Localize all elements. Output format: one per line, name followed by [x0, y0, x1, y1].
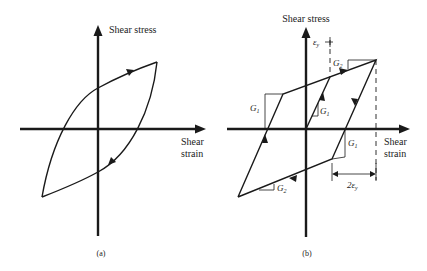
y-axis-label-a: Shear stress [109, 24, 157, 35]
slope-label-g1-left: G1 [250, 103, 260, 114]
direction-arrow-icon [108, 157, 116, 165]
y-axis-label-b: Shear stress [282, 13, 330, 24]
slope-label-g2-bottom: G2 [277, 183, 287, 194]
x-axis-arrow-icon [195, 125, 206, 134]
double-yield-strain-label: 2εy [347, 180, 358, 191]
slope-label-g2-top: G2 [333, 58, 343, 69]
caption-b: (b) [302, 249, 312, 258]
y-axis-arrow-icon [94, 25, 103, 36]
dimension-arrow-left-icon [332, 171, 338, 177]
panel-b: Shear stress Shear strain εy G2 G1 G1 G1… [227, 13, 410, 258]
caption-a: (a) [97, 249, 106, 258]
x-axis-label-a-line2: strain [181, 148, 203, 159]
x-axis-label-a-line1: Shear [181, 136, 204, 147]
y-axis-arrow-icon [302, 27, 311, 38]
slope-label-g1-right: G1 [348, 138, 358, 149]
x-axis-arrow-icon [399, 125, 410, 134]
slope-label-g1-inner: G1 [320, 106, 330, 117]
x-axis-label-b-line2: strain [384, 148, 406, 159]
direction-arrow-icon [339, 68, 348, 75]
direction-arrow-icon [126, 69, 134, 76]
panel-a: Shear stress Shear strain (a) [20, 24, 206, 258]
hysteresis-figure: Shear stress Shear strain (a) [0, 0, 427, 271]
dimension-arrow-right-icon [370, 171, 376, 177]
yield-strain-label: εy [313, 37, 320, 48]
x-axis-label-b-line1: Shear [384, 136, 407, 147]
